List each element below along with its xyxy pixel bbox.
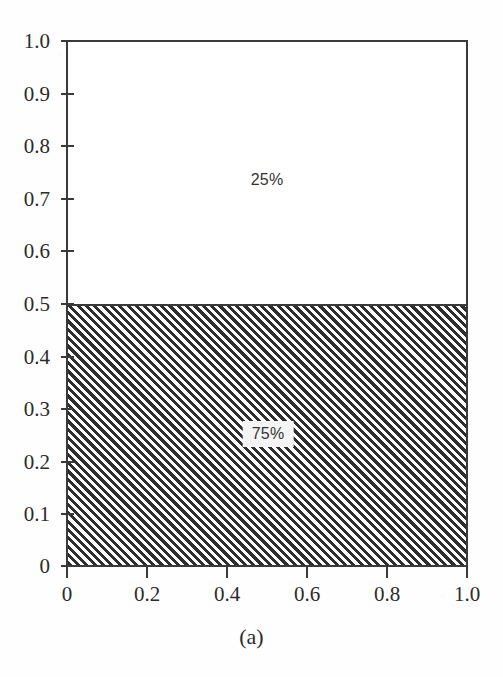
plot-area: 25% 75% 1.0 0.9 0.8 0.7 0.6 0.5 0.4 0.3 … <box>66 40 468 567</box>
y-tick-label-1.0: 1.0 <box>24 31 50 52</box>
y-tick-0.5: 0.5 <box>61 303 74 305</box>
y-tick-label-0.5: 0.5 <box>24 294 50 315</box>
x-tick-0.6: 0.6 <box>306 565 308 578</box>
y-tick-0.8: 0.8 <box>61 145 74 147</box>
x-tick-label-0.4: 0.4 <box>214 584 240 605</box>
figure-container: 25% 75% 1.0 0.9 0.8 0.7 0.6 0.5 0.4 0.3 … <box>0 0 503 677</box>
y-tick-label-0.7: 0.7 <box>24 188 50 209</box>
y-tick-label-0: 0 <box>40 556 51 577</box>
y-tick-0.9: 0.9 <box>61 93 74 95</box>
x-tick-0: 0 <box>66 565 68 578</box>
x-tick-label-0: 0 <box>62 584 73 605</box>
x-tick-0.8: 0.8 <box>386 565 388 578</box>
x-axis-spine <box>66 565 468 567</box>
x-tick-0.4: 0.4 <box>226 565 228 578</box>
x-tick-label-1.0: 1.0 <box>454 584 480 605</box>
y-tick-0.3: 0.3 <box>61 408 74 410</box>
figure-caption: (a) <box>0 624 503 650</box>
y-tick-label-0.9: 0.9 <box>24 83 50 104</box>
x-tick-1.0: 1.0 <box>466 565 468 578</box>
x-tick-0.2: 0.2 <box>146 565 148 578</box>
x-tick-label-0.2: 0.2 <box>134 584 160 605</box>
x-tick-label-0.6: 0.6 <box>294 584 320 605</box>
x-tick-label-0.8: 0.8 <box>374 584 400 605</box>
y-tick-0.6: 0.6 <box>61 250 74 252</box>
y-tick-0.1: 0.1 <box>61 513 74 515</box>
y-tick-label-0.4: 0.4 <box>24 346 50 367</box>
y-tick-label-0.1: 0.1 <box>24 504 50 525</box>
y-tick-label-0.3: 0.3 <box>24 399 50 420</box>
top-spine <box>66 40 468 42</box>
region-boundary-line <box>66 304 468 306</box>
y-tick-0.4: 0.4 <box>61 356 74 358</box>
upper-region-label: 25% <box>251 171 284 189</box>
y-tick-label-0.2: 0.2 <box>24 451 50 472</box>
y-tick-label-0.8: 0.8 <box>24 136 50 157</box>
y-tick-0.2: 0.2 <box>61 461 74 463</box>
y-tick-1.0: 1.0 <box>61 40 74 42</box>
lower-region-label: 75% <box>243 421 294 447</box>
y-tick-0.7: 0.7 <box>61 198 74 200</box>
y-tick-label-0.6: 0.6 <box>24 241 50 262</box>
